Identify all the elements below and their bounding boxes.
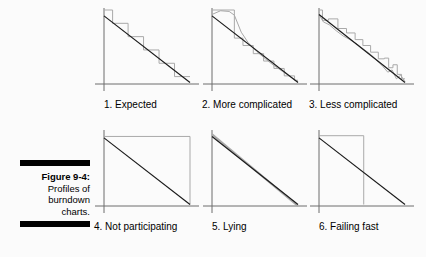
chart-label-lying: 5. Lying [212, 221, 316, 232]
chart-label-not-participating: 4. Not participating [94, 221, 208, 232]
figure-caption-line-2: burndown [20, 194, 90, 206]
figure-caption-block: Figure 9-4: Profiles of burndown charts. [20, 160, 90, 227]
burndown-chart-not-participating [90, 128, 208, 220]
chart-cell-more-complicated: 2. More complicated [198, 6, 316, 110]
burndown-chart-less-complicated [305, 6, 423, 98]
burndown-chart-failing-fast [305, 128, 423, 220]
caption-rule-bottom [20, 221, 90, 227]
chart-label-expected: 1. Expected [104, 99, 208, 110]
figure-page: Figure 9-4: Profiles of burndown charts.… [0, 0, 426, 257]
figure-caption-text: Figure 9-4: Profiles of burndown charts. [20, 166, 90, 221]
figure-caption-line-3: charts. [20, 206, 90, 218]
chart-cell-expected: 1. Expected [90, 6, 208, 110]
chart-cell-failing-fast: 6. Failing fast [305, 128, 423, 232]
chart-label-more-complicated: 2. More complicated [202, 99, 316, 110]
chart-label-failing-fast: 6. Failing fast [319, 221, 423, 232]
figure-caption-line-1: Profiles of [20, 183, 90, 195]
burndown-chart-more-complicated [198, 6, 316, 98]
chart-cell-less-complicated: 3. Less complicated [305, 6, 423, 110]
chart-label-less-complicated: 3. Less complicated [309, 99, 423, 110]
chart-cell-lying: 5. Lying [198, 128, 316, 232]
chart-cell-not-participating: 4. Not participating [90, 128, 208, 232]
burndown-chart-expected [90, 6, 208, 98]
figure-caption-title: Figure 9-4: [20, 171, 90, 183]
burndown-chart-lying [198, 128, 316, 220]
